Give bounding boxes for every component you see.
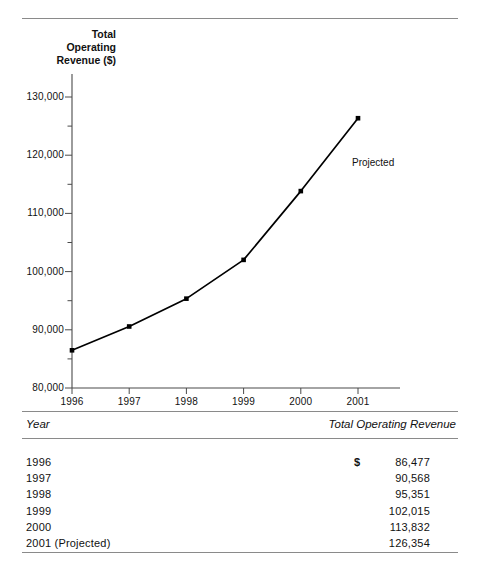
y-axis-tick-label: 80,000: [6, 382, 64, 393]
table-body: 1996$86,477199790,568199895,3511999102,0…: [22, 438, 458, 553]
x-axis-tick-label: 2001: [328, 396, 388, 407]
table-row: 1996$86,477: [22, 456, 458, 472]
table-cell-year: 1997: [26, 472, 51, 484]
table-row: 199895,351: [22, 488, 458, 504]
data-point-marker: [127, 324, 132, 329]
column-header-revenue: Total Operating Revenue: [329, 418, 456, 430]
y-axis-tick-label: 90,000: [6, 324, 64, 335]
table-cell-revenue: 113,832: [360, 521, 430, 533]
y-axis-tick-label: 100,000: [6, 266, 64, 277]
table-cell-year: 1999: [26, 505, 51, 517]
revenue-line-series: [72, 118, 358, 350]
table-cell-year: 1998: [26, 488, 51, 500]
table-cell-revenue: 126,354: [360, 537, 430, 549]
table-row: 1999102,015: [22, 505, 458, 521]
table-cell-year: 2001 (Projected): [26, 537, 111, 549]
x-axis-tick-label: 1997: [99, 396, 159, 407]
y-axis-tick-label: 110,000: [6, 207, 64, 218]
data-point-marker: [299, 189, 304, 194]
data-point-marker: [70, 348, 75, 353]
data-point-marker: [184, 296, 189, 301]
table-cell-revenue: 95,351: [360, 488, 430, 500]
chart-axes: [72, 74, 400, 388]
chart-plot-svg: [0, 22, 480, 402]
x-axis-tick-label: 1999: [214, 396, 274, 407]
chart-page: Total Operating Revenue ($) 130,000120,0…: [0, 0, 480, 568]
top-divider-rule: [22, 18, 458, 19]
table-row: 199790,568: [22, 472, 458, 488]
x-axis-tick-label: 2000: [271, 396, 331, 407]
table-row: 2000113,832: [22, 521, 458, 537]
column-header-year: Year: [26, 418, 50, 430]
table-header-row: Year Total Operating Revenue: [22, 411, 458, 438]
table-cell-year: 1996: [26, 456, 51, 468]
revenue-data-markers: [70, 116, 361, 353]
y-axis-tick-label: 120,000: [6, 149, 64, 160]
y-axis-tick-label: 130,000: [6, 91, 64, 102]
chart-axis-ticks: [65, 97, 358, 394]
line-chart: Total Operating Revenue ($) 130,000120,0…: [0, 22, 480, 402]
table-cell-revenue: 90,568: [360, 472, 430, 484]
table-cell-revenue: 86,477: [360, 456, 430, 468]
x-axis-tick-label: 1998: [156, 396, 216, 407]
table-cell-year: 2000: [26, 521, 51, 533]
x-axis-tick-label: 1996: [42, 396, 102, 407]
data-point-marker: [241, 258, 246, 263]
projected-annotation-label: Projected: [352, 157, 394, 168]
table-cell-revenue: 102,015: [360, 505, 430, 517]
table-row: 2001 (Projected)126,354: [22, 537, 458, 553]
revenue-data-table: Year Total Operating Revenue 1996$86,477…: [22, 411, 458, 553]
data-point-marker: [356, 116, 361, 121]
